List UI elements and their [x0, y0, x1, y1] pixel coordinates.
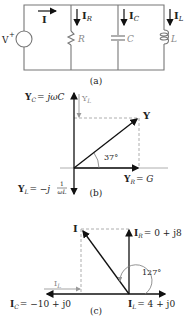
figure: V + I R IR C IC L IL (a) — [0, 0, 191, 319]
label-YL-gray: YL — [81, 94, 91, 104]
current-label-IL: IL — [174, 10, 184, 23]
label-I: I — [73, 223, 78, 234]
label-IR: IR= 0 + j8 — [134, 228, 182, 239]
label-IL: IL= 4 + j0 — [128, 299, 175, 310]
current-diagram-panel-c: IL 127° I IR= 0 + j8 IC= −10 + j0 IL= 4 … — [10, 223, 182, 316]
caption-c: (c) — [90, 306, 102, 316]
angle-label-37: 37° — [104, 153, 118, 162]
angle-label-127: 127° — [142, 268, 161, 277]
caption-b: (b) — [90, 188, 103, 198]
current-label-IC: IC — [129, 10, 140, 23]
label-YL-frac-num: 1 — [60, 180, 64, 187]
capacitor-label: C — [127, 34, 134, 44]
label-YR: YR= G — [123, 174, 154, 185]
label-IC: IC= −10 + j0 — [10, 299, 71, 310]
source-label: V — [1, 35, 9, 45]
current-label-IR: IR — [82, 10, 93, 23]
inductor-label: L — [170, 34, 177, 44]
label-Y: Y — [142, 110, 151, 121]
label-YL: YL= −j — [17, 184, 50, 195]
current-label-I: I — [42, 14, 47, 25]
admittance-diagram-panel-b: 37° YC= jωC YL Y YR= G YL= −j 1 ωL (b) — [17, 92, 168, 198]
caption-a: (a) — [90, 76, 102, 86]
circuit-panel-a: V + I R IR C IC L IL (a) — [1, 5, 184, 86]
phasor-I — [83, 231, 129, 294]
label-IL-gray: IL — [54, 279, 61, 289]
resistor-label: R — [77, 34, 85, 44]
label-YL-frac-den: ωL — [58, 188, 67, 195]
source-sign: + — [9, 31, 15, 39]
voltage-source-icon — [16, 31, 32, 47]
angle-arc-37 — [94, 153, 99, 168]
label-YC: YC= jωC — [24, 92, 65, 103]
